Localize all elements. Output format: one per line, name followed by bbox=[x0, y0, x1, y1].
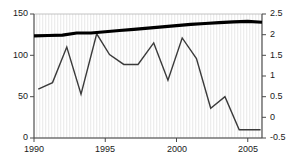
bottom-axis-ticks bbox=[34, 138, 248, 142]
xtick-label-2000: 2000 bbox=[157, 145, 197, 154]
plot-background bbox=[34, 14, 262, 138]
chart-container: 150 100 50 0 2.5 2 1.5 1 0.5 0 -0.5 1990… bbox=[0, 0, 303, 160]
chart-plot-svg bbox=[0, 0, 303, 160]
ytick-label-0: 0 bbox=[4, 133, 28, 142]
y2tick-label-2-5: 2.5 bbox=[270, 9, 283, 18]
right-axis-ticks bbox=[262, 14, 266, 138]
xtick-label-1990: 1990 bbox=[14, 145, 54, 154]
left-axis-ticks bbox=[30, 14, 34, 138]
y2tick-label-0-5: 0.5 bbox=[270, 92, 283, 101]
y2tick-label-2: 2 bbox=[270, 30, 275, 39]
xtick-label-2005: 2005 bbox=[228, 145, 268, 154]
ytick-label-100: 100 bbox=[4, 51, 28, 60]
y2tick-label-1: 1 bbox=[270, 71, 275, 80]
xtick-label-1995: 1995 bbox=[85, 145, 125, 154]
y2tick-label-0: 0 bbox=[270, 113, 275, 122]
y2tick-label-minus-0-5: -0.5 bbox=[270, 133, 286, 142]
y2tick-label-1-5: 1.5 bbox=[270, 51, 283, 60]
ytick-label-50: 50 bbox=[4, 92, 28, 101]
ytick-label-150: 150 bbox=[4, 9, 28, 18]
